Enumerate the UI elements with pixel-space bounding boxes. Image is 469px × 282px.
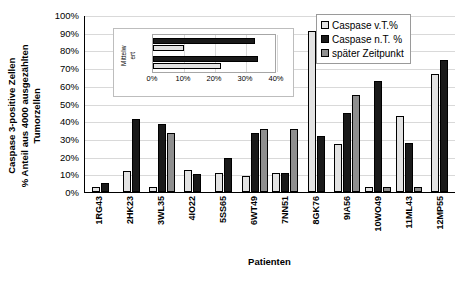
bar: [193, 174, 201, 192]
x-axis-tick-label-cell: 3WL35: [146, 194, 177, 250]
bar: [374, 81, 382, 193]
y-axis-tick-label: 90%: [60, 29, 79, 39]
legend-item[interactable]: Caspase n.T. %: [321, 32, 404, 46]
bar: [414, 187, 422, 192]
bar: [290, 129, 298, 192]
bar: [281, 173, 289, 192]
inset-bar: [153, 63, 221, 69]
x-axis-tick-label: 12MP55: [435, 196, 444, 230]
y-axis-tick-labels: 0%10%20%30%40%50%60%70%80%90%100%: [46, 16, 82, 193]
bar: [149, 187, 157, 192]
legend-item[interactable]: Caspase v.T.%: [321, 18, 404, 32]
legend-swatch-icon: [321, 49, 329, 57]
y-axis-title: Caspase 3-positive Zellen % Anteil aus 4…: [0, 0, 46, 230]
inset-x-axis-tick-label: 20%: [206, 74, 221, 83]
x-axis-tick-label: 2HK23: [126, 196, 135, 224]
inset-bar-group: [153, 56, 275, 69]
bar: [383, 187, 391, 192]
x-axis-tick-label: 1RG43: [95, 196, 104, 225]
bar: [123, 171, 131, 192]
y-axis-tick-label: 10%: [60, 170, 79, 180]
inset-x-axis-tick-label: 30%: [237, 74, 252, 83]
bar: [215, 173, 223, 192]
y-axis-tick-label: 70%: [60, 64, 79, 74]
bar: [92, 187, 100, 192]
bar: [352, 95, 360, 192]
bar: [405, 143, 413, 192]
bar: [242, 176, 250, 192]
x-axis-tick-label: 8GK76: [311, 196, 320, 225]
legend-item-label: Caspase n.T. %: [332, 34, 402, 45]
x-axis-tick-label-cell: 11ML43: [393, 194, 424, 250]
y-axis-tick-label: 60%: [60, 82, 79, 92]
x-axis-tick-label-cell: 12MP55: [424, 194, 455, 250]
x-axis-tick-label-cell: 9IA56: [331, 194, 362, 250]
x-axis-tick-label-cell: 5SS65: [208, 194, 239, 250]
x-axis-tick-label-cell: 2HK23: [115, 194, 146, 250]
legend-item-label: später Zeitpunkt: [332, 48, 404, 59]
x-axis-tick-label: 4IO22: [188, 196, 197, 221]
bar: [440, 60, 448, 192]
inset-chart: Mittelw ert 0%10%20%30%40%: [113, 28, 294, 97]
y-axis-tick-label: 50%: [60, 100, 79, 110]
x-axis-tick-label-cell: 4IO22: [177, 194, 208, 250]
y-axis-title-line-2: % Anteil aus 4000 ausgezählten: [18, 13, 31, 218]
y-axis-tick-label: 20%: [60, 153, 79, 163]
bar: [365, 187, 373, 192]
bar: [343, 113, 351, 192]
x-axis-tick-label-cell: 6WT49: [239, 194, 270, 250]
bar-group: [424, 16, 455, 192]
y-axis-tick-label: 80%: [60, 46, 79, 56]
x-axis-tick-label: 11ML43: [404, 196, 413, 229]
bar: [132, 119, 140, 192]
bar: [308, 31, 316, 192]
x-axis-tick-label-cell: 10WO49: [362, 194, 393, 250]
legend-item[interactable]: später Zeitpunkt: [321, 46, 404, 60]
y-axis-tick-label: 100%: [55, 11, 79, 21]
legend-item-label: Caspase v.T.%: [332, 20, 398, 31]
bar: [158, 124, 166, 192]
y-axis-tick-label: 40%: [60, 117, 79, 127]
inset-plot-area: [152, 34, 276, 73]
inset-bar: [153, 38, 255, 44]
x-axis-tick-labels: 1RG432HK233WL354IO225SS656WT497NN518GK76…: [84, 194, 455, 250]
inset-x-axis-tick-label: 10%: [175, 74, 190, 83]
chart-container: Caspase 3-positive Zellen % Anteil aus 4…: [0, 0, 469, 282]
y-axis-title-line-1: Caspase 3-positive Zellen: [6, 13, 19, 218]
bar: [167, 133, 175, 192]
y-axis-title-line-3: Tumorzellen: [31, 13, 44, 218]
y-axis-tick-label: 30%: [60, 135, 79, 145]
y-axis-tick-label: 0%: [65, 188, 79, 198]
inset-y-axis-title-line-2: ert: [129, 36, 137, 76]
inset-y-axis-title-line-1: Mittelw: [120, 36, 128, 76]
x-axis-tick-label: 9IA56: [342, 196, 351, 220]
x-axis-tick-label: 3WL35: [157, 196, 166, 225]
bar: [272, 173, 280, 192]
x-axis-tick-label: 5SS65: [219, 196, 228, 223]
inset-x-axis-tick-label: 40%: [268, 74, 283, 83]
inset-x-axis-tick-label: 0%: [147, 74, 158, 83]
bar: [396, 116, 404, 192]
inset-bar: [153, 45, 184, 51]
x-axis-title: Patienten: [84, 256, 455, 267]
x-axis-tick-label: 10WO49: [373, 196, 382, 232]
inset-bar: [153, 56, 258, 62]
legend-swatch-icon: [321, 35, 329, 43]
legend-swatch-icon: [321, 21, 329, 29]
x-axis-tick-label: 7NN51: [280, 196, 289, 224]
bar: [224, 158, 232, 193]
bar: [184, 170, 192, 192]
inset-x-axis-tick-labels: 0%10%20%30%40%: [152, 74, 276, 86]
inset-bar-groups: [153, 35, 275, 72]
x-axis-tick-label-cell: 8GK76: [300, 194, 331, 250]
inset-y-axis-title: Mittelw ert: [106, 35, 150, 71]
bar: [251, 133, 259, 192]
bar: [431, 74, 439, 192]
inset-gridline: [277, 35, 278, 72]
bar: [317, 136, 325, 192]
bar: [334, 144, 342, 192]
x-axis-tick-label-cell: 1RG43: [84, 194, 115, 250]
x-axis-tick-label-cell: 7NN51: [270, 194, 301, 250]
bar: [101, 183, 109, 192]
x-axis-tick-label: 6WT49: [250, 196, 259, 225]
